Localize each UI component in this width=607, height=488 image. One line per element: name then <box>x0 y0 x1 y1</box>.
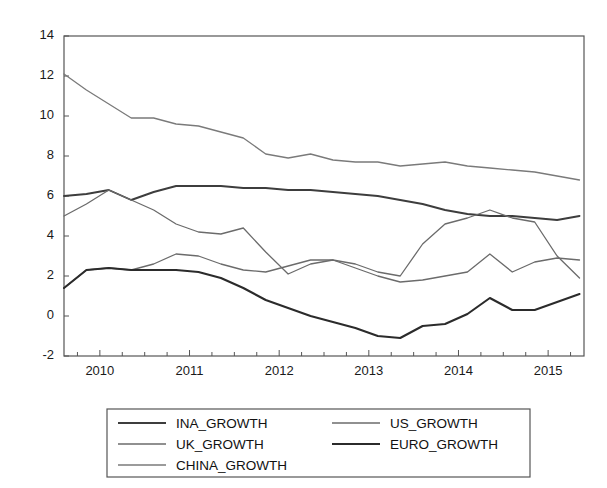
y-tick-label: 10 <box>40 107 54 122</box>
y-tick-label: 4 <box>47 227 54 242</box>
legend-label-us-growth: US_GROWTH <box>390 416 478 431</box>
x-tick-label: 2014 <box>444 363 473 378</box>
y-tick-label: 12 <box>40 67 54 82</box>
legend-label-euro-growth: EURO_GROWTH <box>390 437 498 452</box>
x-tick-label: 2010 <box>85 363 114 378</box>
x-tick-label: 2015 <box>534 363 563 378</box>
y-tick-label: 8 <box>47 147 54 162</box>
legend-label-china-growth: CHINA_GROWTH <box>176 458 287 473</box>
y-axis-tick-labels: -202468101214 <box>40 27 54 362</box>
chart-container: -202468101214 201020112012201320142015 I… <box>0 0 607 488</box>
x-tick-label: 2013 <box>354 363 383 378</box>
chart-legend: INA_GROWTHUS_GROWTHUK_GROWTHEURO_GROWTHC… <box>107 409 530 477</box>
x-tick-label: 2012 <box>265 363 294 378</box>
legend-label-ina-growth: INA_GROWTH <box>176 416 268 431</box>
legend-label-uk-growth: UK_GROWTH <box>176 437 264 452</box>
y-tick-label: 6 <box>47 187 54 202</box>
x-tick-label: 2011 <box>176 363 204 378</box>
y-tick-label: -2 <box>42 347 54 362</box>
y-tick-label: 0 <box>47 307 54 322</box>
series-line-china-growth <box>64 74 580 180</box>
data-series-group <box>64 74 580 338</box>
x-axis-tick-labels: 201020112012201320142015 <box>85 363 562 378</box>
y-tick-label: 2 <box>47 267 54 282</box>
series-line-euro-growth <box>64 268 580 338</box>
y-tick-label: 14 <box>40 27 54 42</box>
series-line-uk-growth <box>64 190 580 278</box>
line-chart: -202468101214 201020112012201320142015 I… <box>0 0 607 488</box>
